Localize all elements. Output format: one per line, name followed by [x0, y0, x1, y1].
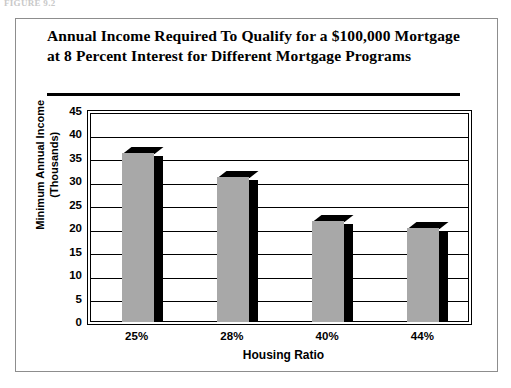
y-axis-tick-label: 10 — [56, 270, 82, 282]
y-axis-title-line2: (Thousands) — [48, 132, 60, 198]
bar-group — [122, 113, 154, 322]
page-title: Annual Income Required To Qualify for a … — [47, 26, 462, 65]
x-axis-tick-label: 25% — [125, 330, 148, 342]
bar — [122, 153, 154, 322]
y-axis-tick-label: 0 — [56, 317, 82, 329]
y-axis-title: Minimum Annual Income (Thousands) — [34, 70, 62, 260]
bar-shadow-side — [344, 224, 353, 322]
x-axis-title: Housing Ratio — [0, 348, 511, 362]
bar-shadow-side — [439, 231, 448, 322]
bar — [217, 177, 249, 322]
plot-frame-outer — [87, 110, 472, 325]
x-axis-title-text: Housing Ratio — [243, 348, 324, 362]
bar-group — [312, 113, 344, 322]
x-axis-tick-labels: 25%28%40%44% — [87, 330, 472, 346]
bar — [407, 228, 439, 322]
y-axis-title-line1: Minimum Annual Income — [34, 100, 46, 230]
chart-title-block: Annual Income Required To Qualify for a … — [47, 26, 462, 65]
x-axis-tick-label: 44% — [411, 330, 434, 342]
bar-shadow-side — [154, 156, 163, 322]
bar-group — [217, 113, 249, 322]
x-axis-tick-label: 28% — [220, 330, 243, 342]
y-axis-tick-label: 5 — [56, 294, 82, 306]
bar-shadow-side — [249, 180, 258, 322]
bar-group — [407, 113, 439, 322]
bar — [312, 221, 344, 322]
bars-layer — [90, 113, 469, 322]
title-divider — [47, 93, 460, 96]
figure-caption: FIGURE 9.2 — [4, 0, 56, 8]
plot-area-wrapper — [87, 110, 472, 325]
x-axis-tick-label: 40% — [316, 330, 339, 342]
